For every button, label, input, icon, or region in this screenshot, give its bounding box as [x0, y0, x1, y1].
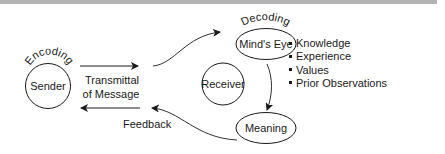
- sender-node: Sender: [26, 64, 71, 109]
- arrow-to-minds-eye: [153, 32, 220, 66]
- factor-item: Prior Observations: [289, 77, 387, 90]
- receiver-node: Receiver: [201, 63, 245, 105]
- factor-item: Values: [289, 64, 387, 77]
- bullet-icon: [289, 42, 292, 45]
- decoding-arc-label: Decoding: [239, 10, 293, 27]
- bullet-icon: [289, 81, 292, 84]
- minds-eye-factors-list: Knowledge Experience Values Prior Observ…: [289, 37, 387, 90]
- transmittal-label-line1: Transmittal: [85, 74, 139, 86]
- transmittal-label-line2: of Message: [83, 88, 140, 100]
- meaning-node: Meaning: [236, 113, 296, 144]
- factor-item: Experience: [289, 50, 387, 63]
- feedback-label: Feedback: [123, 118, 172, 130]
- arrow-minds-eye-to-meaning: [267, 64, 272, 110]
- minds-eye-label: Mind's Eye: [239, 38, 292, 50]
- meaning-label: Meaning: [245, 122, 287, 134]
- sender-label: Sender: [30, 80, 66, 92]
- receiver-label: Receiver: [201, 78, 245, 90]
- factor-item: Knowledge: [289, 37, 387, 50]
- bullet-icon: [289, 55, 292, 58]
- bullet-icon: [289, 68, 292, 71]
- minds-eye-node: Mind's Eye: [236, 29, 296, 60]
